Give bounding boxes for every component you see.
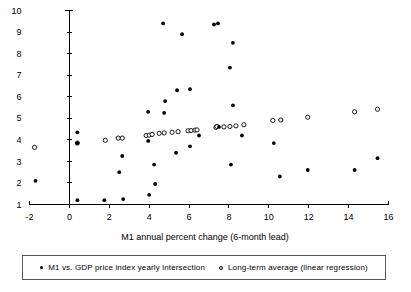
y-tick-label: 7: [16, 70, 21, 80]
axes: [30, 11, 389, 209]
y-tick-label: 6: [16, 92, 21, 102]
x-tick-label: 4: [147, 212, 152, 222]
data-point-open: [103, 138, 107, 142]
chart-legend: M1 vs. GDP price index yearly intersecti…: [22, 255, 386, 280]
filled-circle-icon: [40, 266, 43, 269]
legend-entry-long-term-average: Long-term average (linear regression): [219, 263, 368, 272]
series-m1-gdp-intersection-points: [34, 22, 380, 203]
data-point-filled: [306, 168, 310, 172]
data-point-open: [352, 110, 356, 114]
data-point-filled: [231, 103, 235, 107]
data-point-open: [32, 145, 36, 149]
open-circle-icon: [219, 266, 223, 270]
data-point-filled: [353, 168, 357, 172]
y-tick-label: 1: [16, 200, 21, 210]
x-tick-label: 6: [187, 212, 192, 222]
data-point-open: [306, 115, 310, 119]
data-point-filled: [188, 87, 192, 91]
data-point-filled: [121, 197, 125, 201]
data-point-filled: [146, 139, 150, 143]
data-point-filled: [188, 144, 192, 148]
x-tick-label: 12: [304, 212, 314, 222]
x-tick-label: 0: [67, 212, 72, 222]
data-point-filled: [212, 23, 216, 27]
y-tick-label: 9: [16, 27, 21, 37]
data-point-filled: [216, 22, 220, 26]
data-point-filled: [75, 130, 79, 134]
data-point-open: [157, 131, 161, 135]
data-point-open: [176, 130, 180, 134]
data-point-open: [228, 124, 232, 128]
data-point-open: [120, 136, 124, 140]
x-tick-label: 2: [107, 212, 112, 222]
data-point-open: [234, 124, 238, 128]
data-point-filled: [102, 198, 106, 202]
series-long-term-average-points: [32, 107, 379, 149]
y-tick-label: 2: [16, 178, 21, 188]
data-point-filled: [34, 179, 38, 183]
data-point-open: [189, 128, 193, 132]
x-tick-label: 10: [264, 212, 274, 222]
data-point-filled: [146, 110, 150, 114]
data-point-open: [222, 125, 226, 129]
data-point-filled: [376, 156, 380, 160]
legend-label-long-term-average: Long-term average (linear regression): [228, 263, 368, 272]
data-point-open: [195, 128, 199, 132]
data-point-filled: [272, 141, 276, 145]
legend-label-m1-gdp-intersection: M1 vs. GDP price index yearly intersecti…: [48, 263, 205, 272]
data-point-filled: [175, 88, 179, 92]
data-point-open: [271, 118, 275, 122]
data-point-filled: [153, 182, 157, 186]
x-axis-tick-labels: -20246810121416: [25, 212, 393, 222]
y-tick-label: 5: [16, 113, 21, 123]
y-tick-label: 4: [16, 135, 21, 145]
data-point-filled: [75, 141, 79, 145]
data-point-open: [242, 123, 246, 127]
x-tick-label: 8: [226, 212, 231, 222]
data-point-open: [150, 132, 154, 136]
data-point-filled: [174, 151, 178, 155]
data-point-filled: [278, 175, 282, 179]
data-point-filled: [163, 99, 167, 103]
data-point-filled: [152, 163, 156, 167]
data-point-open: [162, 131, 166, 135]
data-point-filled: [240, 134, 244, 138]
data-point-filled: [217, 125, 221, 129]
legend-entry-m1-gdp-intersection: M1 vs. GDP price index yearly intersecti…: [40, 263, 205, 272]
y-axis-tick-labels: 12345678910: [11, 6, 21, 210]
data-point-filled: [162, 111, 166, 115]
chart-canvas: 12345678910 -20246810121416 M1 annual pe…: [0, 0, 411, 245]
data-point-filled: [147, 193, 151, 197]
data-point-filled: [120, 154, 124, 158]
data-point-filled: [228, 66, 232, 70]
data-point-filled: [75, 198, 79, 202]
y-tick-label: 8: [16, 49, 21, 59]
data-point-open: [170, 130, 174, 134]
x-tick-label: 14: [344, 212, 354, 222]
data-point-filled: [161, 22, 165, 26]
data-point-filled: [231, 41, 235, 45]
plot-area: 12345678910 -20246810121416 M1 annual pe…: [0, 0, 411, 245]
y-tick-label: 3: [16, 157, 21, 167]
x-tick-label: 16: [383, 212, 393, 222]
data-point-filled: [117, 170, 121, 174]
y-tick-label: 10: [11, 6, 21, 16]
data-point-open: [375, 107, 379, 111]
data-point-filled: [229, 163, 233, 167]
data-point-filled: [180, 32, 184, 36]
data-point-open: [279, 118, 283, 122]
x-axis-title: M1 annual percent change (6-month lead): [121, 232, 289, 242]
data-point-filled: [197, 134, 201, 138]
scatter-chart: 12345678910 -20246810121416 M1 annual pe…: [0, 0, 411, 292]
x-tick-label: -2: [25, 212, 33, 222]
